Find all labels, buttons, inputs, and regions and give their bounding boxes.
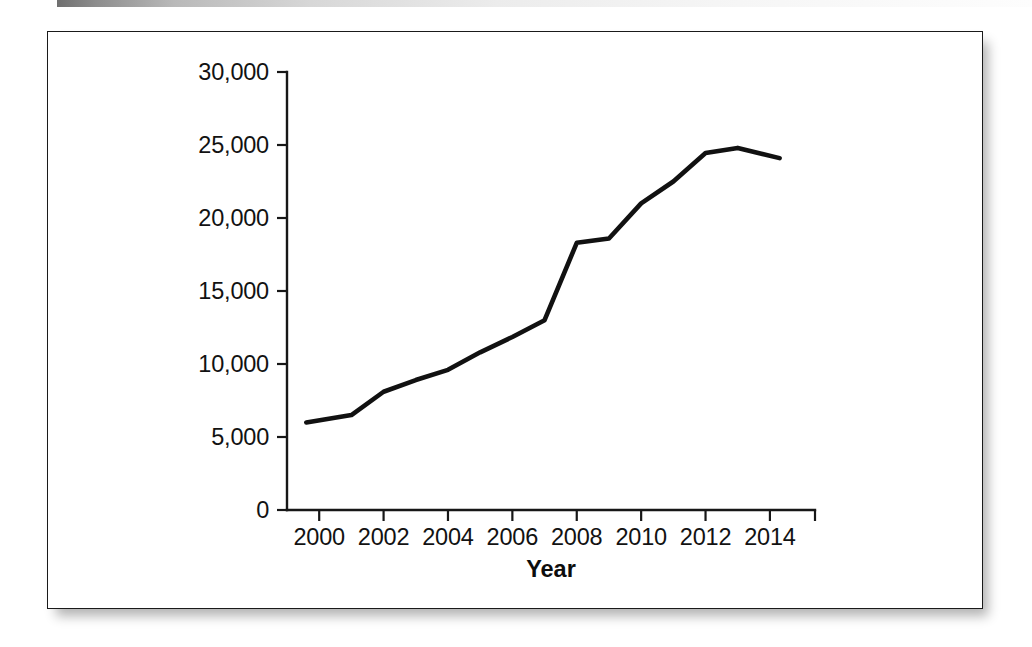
y-axis-tick-labels: 05,00010,00015,00020,00025,00030,000	[198, 59, 269, 523]
y-tick-label: 5,000	[211, 424, 269, 450]
x-tick-label: 2014	[744, 524, 796, 550]
x-tick-label: 2000	[293, 524, 345, 550]
x-axis-tick-labels: 20002002200420062008201020122014	[293, 524, 795, 550]
y-tick-label: 15,000	[198, 278, 269, 304]
x-tick-label: 2004	[422, 524, 474, 550]
y-tick-label: 30,000	[198, 59, 269, 85]
figure-panel: 05,00010,00015,00020,00025,00030,000 200…	[47, 31, 983, 609]
x-axis-title: Year	[526, 556, 576, 582]
scan-artifact-bar	[57, 0, 1032, 7]
x-axis-ticks	[319, 510, 815, 521]
x-tick-label: 2006	[487, 524, 539, 550]
x-tick-label: 2012	[680, 524, 731, 550]
x-tick-label: 2010	[615, 524, 667, 550]
y-tick-label: 10,000	[198, 351, 269, 377]
data-series-line	[306, 148, 779, 422]
y-tick-label: 0	[256, 497, 269, 523]
y-tick-label: 25,000	[198, 132, 269, 158]
line-chart: 05,00010,00015,00020,00025,00030,000 200…	[48, 32, 984, 610]
x-tick-label: 2008	[551, 524, 603, 550]
x-tick-label: 2002	[358, 524, 409, 550]
chart-area: 05,00010,00015,00020,00025,00030,000 200…	[48, 32, 984, 610]
y-axis-ticks	[277, 72, 287, 510]
y-tick-label: 20,000	[198, 205, 269, 231]
